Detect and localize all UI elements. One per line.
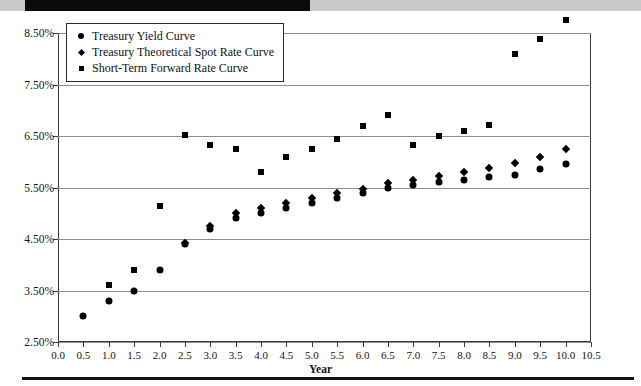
data-point-square: [309, 146, 315, 152]
data-point-square: [385, 112, 391, 118]
treasury-curves-scatter-chart: 2.50%3.50%4.50%5.50%6.50%7.50%8.50% 0.00…: [0, 11, 641, 375]
y-tick-label: 6.50%: [24, 130, 54, 142]
data-point-circle: [537, 166, 544, 173]
data-point-circle: [80, 313, 87, 320]
data-point-square: [207, 142, 213, 148]
x-tick-label: 8.0: [457, 349, 471, 361]
y-tick-label: 4.50%: [24, 233, 54, 245]
x-tick-mark: [236, 342, 237, 347]
data-point-circle: [486, 174, 493, 181]
gridline-horizontal: [58, 136, 591, 137]
gridline-horizontal: [58, 342, 591, 343]
data-point-square: [157, 203, 163, 209]
x-tick-label: 7.5: [432, 349, 446, 361]
x-tick-mark: [185, 342, 186, 347]
x-tick-label: 4.0: [254, 349, 268, 361]
data-point-square: [563, 17, 569, 23]
data-point-square: [182, 132, 188, 138]
legend-item-treasury-yield-curve: Treasury Yield Curve: [74, 28, 274, 44]
data-point-circle: [156, 266, 163, 273]
x-tick-mark: [58, 342, 59, 347]
x-tick-mark: [312, 342, 313, 347]
x-tick-label: 4.5: [280, 349, 294, 361]
x-tick-mark: [210, 342, 211, 347]
y-tick-label: 7.50%: [24, 79, 54, 91]
footer-rule: [22, 377, 634, 380]
header-bar-black-block: [25, 0, 310, 11]
legend-label: Short-Term Forward Rate Curve: [92, 61, 248, 76]
x-tick-label: 1.5: [127, 349, 141, 361]
x-tick-label: 6.5: [381, 349, 395, 361]
y-tick-label: 8.50%: [24, 27, 54, 39]
x-tick-label: 1.0: [102, 349, 116, 361]
x-tick-mark: [363, 342, 364, 347]
x-tick-label: 6.0: [356, 349, 370, 361]
chart-legend: Treasury Yield Curve Treasury Theoretica…: [66, 23, 284, 82]
x-tick-mark: [464, 342, 465, 347]
x-tick-mark: [134, 342, 135, 347]
circle-marker-icon: [74, 33, 88, 39]
gridline-horizontal: [58, 291, 591, 292]
x-tick-label: 3.0: [203, 349, 217, 361]
x-tick-mark: [489, 342, 490, 347]
x-tick-mark: [566, 342, 567, 347]
y-tick-label: 3.50%: [24, 285, 54, 297]
x-tick-label: 5.5: [330, 349, 344, 361]
data-point-circle: [511, 171, 518, 178]
gridline-horizontal: [58, 85, 591, 86]
data-point-square: [233, 146, 239, 152]
x-tick-mark: [515, 342, 516, 347]
data-point-square: [512, 51, 518, 57]
x-tick-label: 9.0: [508, 349, 522, 361]
legend-label: Treasury Yield Curve: [92, 29, 195, 44]
gridline-horizontal: [58, 239, 591, 240]
diamond-marker-icon: [74, 50, 88, 55]
data-point-square: [461, 128, 467, 134]
data-point-square: [537, 36, 543, 42]
data-point-square: [334, 136, 340, 142]
y-tick-label: 2.50%: [24, 336, 54, 348]
data-point-circle: [131, 287, 138, 294]
legend-item-short-term-forward-rate-curve: Short-Term Forward Rate Curve: [74, 60, 274, 76]
x-tick-mark: [160, 342, 161, 347]
header-bar: [0, 0, 641, 11]
data-point-circle: [461, 176, 468, 183]
x-tick-mark: [337, 342, 338, 347]
x-tick-label: 8.5: [483, 349, 497, 361]
data-point-circle: [105, 297, 112, 304]
data-point-square: [436, 133, 442, 139]
legend-label: Treasury Theoretical Spot Rate Curve: [92, 45, 274, 60]
data-point-circle: [562, 161, 569, 168]
x-tick-mark: [109, 342, 110, 347]
data-point-square: [283, 154, 289, 160]
x-tick-mark: [286, 342, 287, 347]
x-tick-mark: [388, 342, 389, 347]
x-tick-label: 2.0: [153, 349, 167, 361]
x-tick-label: 3.5: [229, 349, 243, 361]
data-point-square: [131, 267, 137, 273]
data-point-square: [360, 123, 366, 129]
square-marker-icon: [74, 66, 88, 71]
x-tick-label: 2.5: [178, 349, 192, 361]
data-point-square: [106, 282, 112, 288]
x-tick-mark: [540, 342, 541, 347]
x-tick-mark: [591, 342, 592, 347]
x-tick-label: 10.0: [556, 349, 575, 361]
gridline-horizontal: [58, 188, 591, 189]
x-tick-mark: [83, 342, 84, 347]
x-tick-label: 9.5: [533, 349, 547, 361]
x-tick-mark: [439, 342, 440, 347]
x-tick-label: 10.5: [581, 349, 600, 361]
data-point-square: [410, 142, 416, 148]
x-tick-label: 0.5: [77, 349, 91, 361]
y-tick-label: 5.50%: [24, 182, 54, 194]
x-tick-mark: [413, 342, 414, 347]
x-axis-title: Year: [0, 363, 641, 375]
legend-item-treasury-theoretical-spot-rate-curve: Treasury Theoretical Spot Rate Curve: [74, 44, 274, 60]
x-tick-label: 0.0: [51, 349, 65, 361]
data-point-square: [258, 169, 264, 175]
data-point-square: [486, 122, 492, 128]
x-tick-label: 5.0: [305, 349, 319, 361]
x-tick-mark: [261, 342, 262, 347]
x-tick-label: 7.0: [406, 349, 420, 361]
